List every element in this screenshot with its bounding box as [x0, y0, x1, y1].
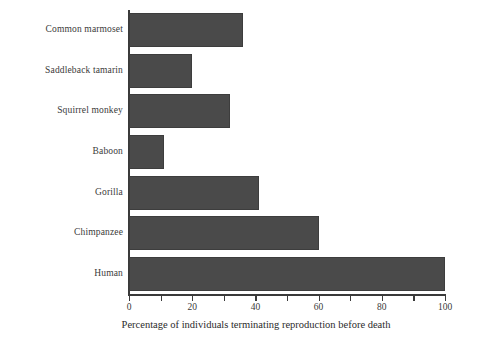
- bar-row: [129, 54, 445, 88]
- x-axis-tick: [287, 295, 288, 301]
- bar[interactable]: [129, 216, 319, 250]
- category-label: Gorilla: [0, 187, 123, 197]
- plot-area: [129, 10, 445, 294]
- x-axis-tick: [192, 295, 193, 301]
- x-axis-tick-label: 0: [127, 302, 132, 312]
- bar-chart-figure: Common marmosetSaddleback tamarinSquirre…: [0, 0, 478, 354]
- x-axis-tick: [319, 295, 320, 301]
- category-label: Common marmoset: [0, 24, 123, 34]
- x-axis-tick: [224, 295, 225, 301]
- bar-row: [129, 176, 445, 210]
- category-label: Saddleback tamarin: [0, 65, 123, 75]
- bar[interactable]: [129, 94, 230, 128]
- category-label: Squirrel monkey: [0, 105, 123, 115]
- category-label: Baboon: [0, 146, 123, 156]
- category-label: Human: [0, 268, 123, 278]
- x-axis-title-text: Percentage of individuals terminating re…: [122, 319, 391, 330]
- x-axis-tick-label: 40: [251, 302, 261, 312]
- x-axis-tick-label: 60: [314, 302, 324, 312]
- x-axis-tick-label: 80: [377, 302, 387, 312]
- x-axis-tick: [382, 295, 383, 301]
- x-axis-tick: [129, 295, 130, 301]
- bar-row: [129, 216, 445, 250]
- bar-row: [129, 257, 445, 291]
- bar[interactable]: [129, 135, 164, 169]
- x-axis-tick: [350, 295, 351, 301]
- bar-row: [129, 94, 445, 128]
- x-axis-tick: [445, 295, 446, 301]
- x-axis-tick-label: 100: [438, 302, 452, 312]
- bar[interactable]: [129, 13, 243, 47]
- category-label: Chimpanzee: [0, 227, 123, 237]
- x-axis-tick: [413, 295, 414, 301]
- x-axis-tick: [161, 295, 162, 301]
- category-axis-labels: Common marmosetSaddleback tamarinSquirre…: [0, 10, 123, 294]
- x-axis-tick-label: 20: [187, 302, 197, 312]
- bar-row: [129, 135, 445, 169]
- x-axis-tick: [255, 295, 256, 301]
- bar-row: [129, 13, 445, 47]
- x-axis-title: Percentage of individuals terminating re…: [0, 319, 478, 330]
- bar[interactable]: [129, 176, 259, 210]
- bar[interactable]: [129, 54, 192, 88]
- bar[interactable]: [129, 257, 445, 291]
